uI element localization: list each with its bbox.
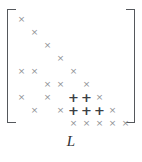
matrix-container: ××××××××××××++×××+++××××××	[0, 0, 142, 132]
matrix-entry-original-r9c6: ×	[80, 117, 93, 130]
matrix-entry-original-r8c4: ×	[54, 104, 67, 117]
matrix-entry-original-r9c9: ×	[119, 117, 132, 130]
matrix-entry-original-r5c2: ×	[28, 65, 41, 78]
matrix-entry-original-r9c8: ×	[106, 117, 119, 130]
matrix-entry-original-r7c3: ×	[41, 91, 54, 104]
matrix-entry-fill-in-r8c6: +	[80, 104, 93, 117]
matrix-entry-original-r4c4: ×	[54, 52, 67, 65]
matrix-entry-original-r5c5: ×	[67, 65, 80, 78]
matrix-entry-fill-in-r8c5: +	[67, 104, 80, 117]
matrix-entry-original-r9c5: ×	[67, 117, 80, 130]
matrix-entry-original-r7c1: ×	[15, 91, 28, 104]
matrix-entry-original-r2c2: ×	[28, 26, 41, 39]
matrix-caption-label: L	[0, 133, 142, 150]
matrix-sparsity-figure: ××××××××××××++×××+++×××××× L	[0, 0, 142, 162]
matrix-entry-original-r6c3: ×	[41, 78, 54, 91]
matrix-entry-original-r6c4: ×	[54, 78, 67, 91]
matrix-entry-original-r1c1: ×	[15, 13, 28, 26]
matrix-entry-original-r5c1: ×	[15, 65, 28, 78]
matrix-entry-original-r9c7: ×	[93, 117, 106, 130]
matrix-entry-grid: ××××××××××××++×××+++××××××	[0, 0, 142, 132]
matrix-entry-fill-in-r8c7: +	[93, 104, 106, 117]
matrix-entry-original-r8c8: ×	[106, 104, 119, 117]
matrix-entry-original-r3c3: ×	[41, 39, 54, 52]
matrix-entry-original-r8c2: ×	[28, 104, 41, 117]
